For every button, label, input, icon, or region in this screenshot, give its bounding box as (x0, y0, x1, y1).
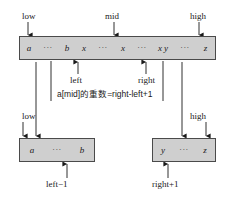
array-cell: z (196, 44, 215, 53)
array-cell-mid: x (114, 44, 132, 53)
array-cell: x y (152, 44, 174, 53)
top-array: a ··· b x ··· x ··· x y ··· z (19, 36, 216, 60)
array-ellipsis: ··· (173, 146, 195, 154)
array-cell: y (153, 146, 173, 155)
left-subarray: a ··· b (19, 138, 95, 162)
label-right-plus-1: right+1 (152, 180, 179, 189)
label-low-bottom: low (22, 112, 36, 121)
formula-text: a[mid]的重数=right-left+1 (57, 90, 153, 99)
label-high-bottom: high (190, 112, 206, 121)
array-cell: a (20, 146, 44, 155)
array-cell: z (195, 146, 215, 155)
array-ellipsis: ··· (174, 44, 196, 52)
array-ellipsis: ··· (92, 44, 114, 52)
label-left-minus-1: left−1 (46, 180, 68, 189)
algorithm-diagram: a ··· b x ··· x ··· x y ··· z a ··· b y … (0, 0, 227, 199)
label-left: left (70, 76, 82, 85)
array-ellipsis: ··· (132, 44, 152, 52)
array-ellipsis: ··· (38, 44, 58, 52)
array-cell: x (76, 44, 92, 53)
label-low-top: low (22, 12, 36, 21)
label-high-top: high (190, 12, 206, 21)
right-subarray: y ··· z (152, 138, 216, 162)
label-mid-top: mid (105, 12, 119, 21)
connector-lines (0, 0, 227, 199)
array-cell: b (58, 44, 76, 53)
array-cell: b (70, 146, 94, 155)
array-ellipsis: ··· (44, 146, 70, 154)
label-right: right (138, 76, 155, 85)
array-cell: a (20, 44, 38, 53)
